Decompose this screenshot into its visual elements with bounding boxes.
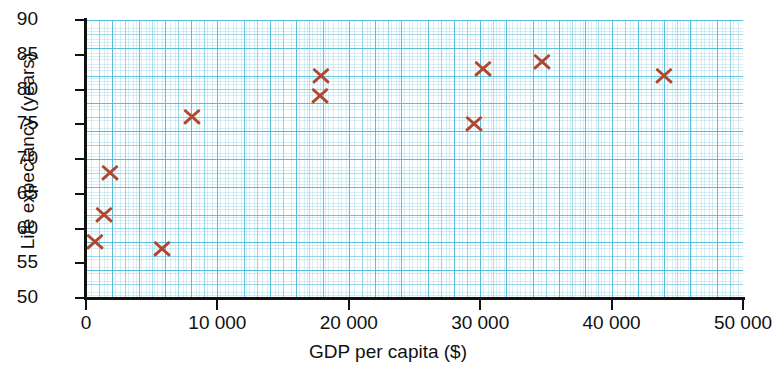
x-axis-title: GDP per capita ($) <box>0 341 776 363</box>
y-axis-title: Life expectancy (years) <box>17 6 39 296</box>
grid-major-lines <box>86 20 743 298</box>
y-tick-mark <box>75 54 84 56</box>
x-tick-label: 40 000 <box>583 312 641 334</box>
y-tick-mark <box>75 158 84 160</box>
y-tick-mark <box>75 228 84 230</box>
x-tick-mark <box>348 300 350 310</box>
y-tick-mark <box>75 262 84 264</box>
scatter-chart-figure: 505560657075808590 010 00020 00030 00040… <box>0 0 776 370</box>
y-tick-mark <box>75 297 84 299</box>
y-tick-mark <box>75 123 84 125</box>
x-tick-label: 0 <box>81 312 92 334</box>
y-tick-mark <box>75 193 84 195</box>
x-tick-mark <box>216 300 218 310</box>
y-tick-mark <box>75 19 84 21</box>
x-tick-mark <box>85 300 87 310</box>
x-tick-label: 10 000 <box>188 312 246 334</box>
x-tick-label: 30 000 <box>451 312 509 334</box>
x-tick-mark <box>479 300 481 310</box>
plot-area <box>86 20 743 298</box>
x-tick-label: 20 000 <box>320 312 378 334</box>
x-tick-mark <box>611 300 613 310</box>
x-tick-label: 50 000 <box>714 312 772 334</box>
y-axis-line <box>84 18 87 300</box>
x-axis-line <box>84 297 745 300</box>
y-tick-mark <box>75 89 84 91</box>
x-tick-mark <box>742 300 744 310</box>
